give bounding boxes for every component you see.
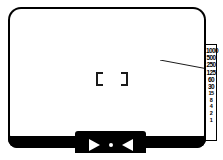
scale-tick: 1 [206, 117, 216, 124]
scale-tick: 2 [206, 110, 216, 117]
scale-tick: 1000 [206, 47, 216, 54]
scale-tick: 8 [206, 97, 216, 104]
scale-tick: 15 [206, 90, 216, 97]
exposure-indicator-tab [75, 131, 146, 153]
autofocus-brackets [96, 72, 128, 86]
scale-tick: 250 [206, 61, 216, 68]
focus-bracket-right-icon [121, 72, 128, 86]
indicator-marks [75, 138, 146, 151]
shutter-speed-scale: 1000 500 250 125 60 30 15 8 4 2 1 [205, 44, 217, 141]
focus-bracket-left-icon [96, 72, 103, 86]
scale-tick: 500 [206, 54, 216, 61]
center-dot-icon [109, 143, 113, 147]
scale-tick: 4 [206, 103, 216, 110]
scale-tick: 125 [206, 69, 216, 76]
triangle-left-icon [122, 139, 133, 151]
scale-tick: 60 [206, 76, 216, 83]
camera-viewfinder-diagram: 1000 500 250 125 60 30 15 8 4 2 1 [0, 0, 223, 160]
scale-tick: 30 [206, 83, 216, 90]
triangle-right-icon [89, 139, 100, 151]
